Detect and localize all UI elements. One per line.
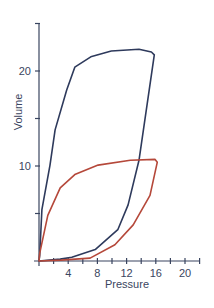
pressure-volume-chart: 1020 48121620 Volume Pressure	[0, 0, 214, 308]
x-tick-label: 8	[94, 267, 100, 279]
x-tick-label: 20	[179, 267, 191, 279]
x-tick-label: 16	[150, 267, 162, 279]
curves	[39, 49, 157, 261]
blue-loop-curve	[39, 49, 154, 261]
y-axis-title: Volume	[12, 94, 24, 131]
x-axis-title: Pressure	[105, 278, 149, 290]
x-tick-label: 4	[65, 267, 71, 279]
red-loop-curve	[39, 159, 157, 261]
y-tick-label: 10	[19, 160, 31, 172]
y-tick-label: 20	[19, 65, 31, 77]
